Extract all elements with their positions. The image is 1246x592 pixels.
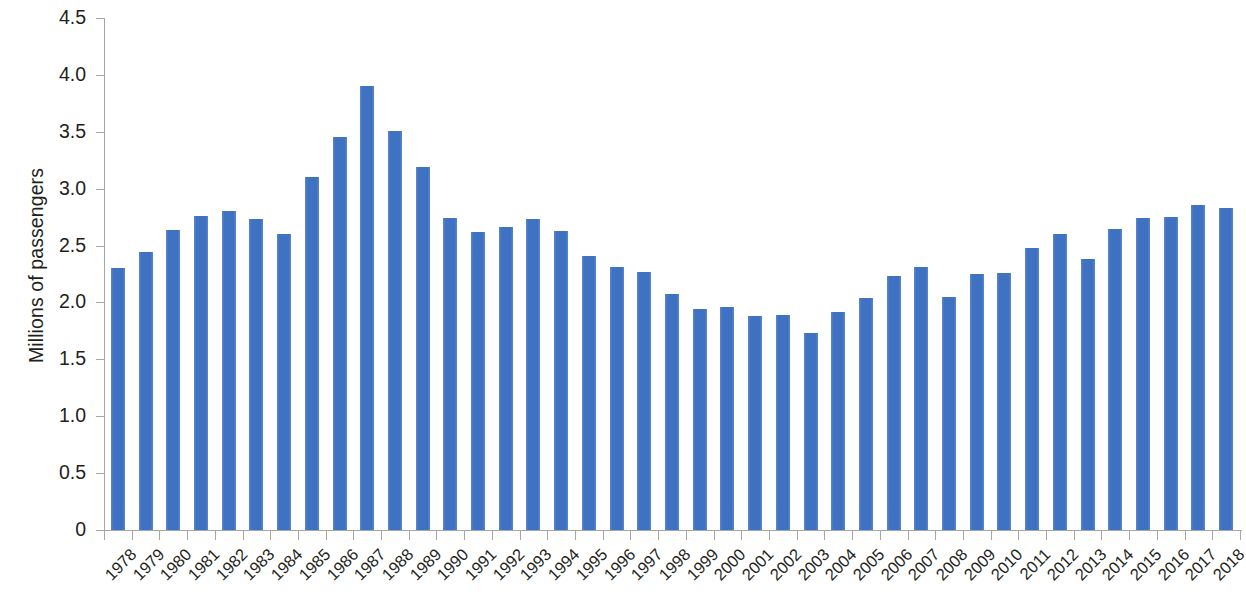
bar[interactable] <box>111 268 125 530</box>
bar[interactable] <box>499 227 513 530</box>
bar[interactable] <box>1081 259 1095 530</box>
x-axis-tick-label: 2018 <box>1209 545 1246 584</box>
bar[interactable] <box>194 216 208 530</box>
bar[interactable] <box>305 177 319 530</box>
bar[interactable] <box>665 294 679 530</box>
y-axis-tick <box>96 246 104 247</box>
x-axis-tick <box>991 531 992 540</box>
bar[interactable] <box>554 231 568 530</box>
x-axis-tick <box>630 531 631 540</box>
y-axis-tick-label: 3.5 <box>16 122 86 142</box>
x-axis-tick <box>159 531 160 540</box>
y-axis-tick-label: 4.5 <box>16 8 86 28</box>
x-axis-tick <box>326 531 327 540</box>
bar[interactable] <box>997 273 1011 530</box>
bar[interactable] <box>526 219 540 530</box>
x-axis-tick <box>132 531 133 540</box>
x-axis-tick <box>1212 531 1213 540</box>
bar-chart: Millions of passengers 4.54.03.53.02.52.… <box>0 0 1246 592</box>
y-axis-tick <box>96 189 104 190</box>
x-axis-tick <box>547 531 548 540</box>
x-axis-tick <box>298 531 299 540</box>
bar[interactable] <box>166 230 180 530</box>
x-axis-tick <box>658 531 659 540</box>
x-axis-tick <box>797 531 798 540</box>
x-axis-tick <box>1101 531 1102 540</box>
y-axis-tick <box>96 302 104 303</box>
bar[interactable] <box>416 167 430 530</box>
bar[interactable] <box>333 137 347 530</box>
bar[interactable] <box>360 86 374 530</box>
x-axis-tick <box>436 531 437 540</box>
bar[interactable] <box>942 297 956 530</box>
x-axis-tick <box>409 531 410 540</box>
bar[interactable] <box>693 309 707 530</box>
x-axis-tick <box>381 531 382 540</box>
bar[interactable] <box>1108 229 1122 531</box>
x-axis-tick <box>741 531 742 540</box>
y-axis-tick <box>96 416 104 417</box>
plot-area <box>104 18 1240 530</box>
bar[interactable] <box>637 272 651 530</box>
x-axis-tick <box>1157 531 1158 540</box>
bar[interactable] <box>582 256 596 530</box>
x-axis-tick <box>686 531 687 540</box>
x-axis-tick <box>603 531 604 540</box>
x-axis-tick <box>270 531 271 540</box>
x-axis-tick <box>1074 531 1075 540</box>
x-axis-tick <box>464 531 465 540</box>
bar[interactable] <box>914 267 928 530</box>
y-axis-tick-label: 2.0 <box>16 292 86 312</box>
bar[interactable] <box>277 234 291 530</box>
bar[interactable] <box>471 232 485 530</box>
x-axis-tick <box>824 531 825 540</box>
y-axis-tick-label: 0 <box>16 520 86 540</box>
x-axis-tick <box>215 531 216 540</box>
bar[interactable] <box>1053 234 1067 530</box>
bar[interactable] <box>831 312 845 530</box>
x-axis-tick <box>714 531 715 540</box>
x-axis-tick <box>1129 531 1130 540</box>
x-axis-tick <box>243 531 244 540</box>
y-axis-tick <box>96 132 104 133</box>
x-axis-tick <box>935 531 936 540</box>
bar[interactable] <box>388 131 402 530</box>
bar[interactable] <box>249 219 263 530</box>
bar[interactable] <box>748 316 762 530</box>
x-axis-tick <box>880 531 881 540</box>
bar[interactable] <box>970 274 984 530</box>
bar[interactable] <box>776 315 790 530</box>
x-axis-tick <box>1240 531 1241 540</box>
y-axis-tick <box>96 473 104 474</box>
y-axis-tick-label: 0.5 <box>16 463 86 483</box>
bar[interactable] <box>443 218 457 530</box>
x-axis-tick <box>852 531 853 540</box>
x-axis-tick <box>1185 531 1186 540</box>
bar[interactable] <box>720 307 734 530</box>
y-axis-tick <box>96 359 104 360</box>
x-axis-tick <box>769 531 770 540</box>
bar[interactable] <box>887 276 901 530</box>
bar[interactable] <box>1164 217 1178 530</box>
y-axis-tick-label: 1.0 <box>16 406 86 426</box>
x-axis-tick <box>104 531 105 540</box>
bar[interactable] <box>139 252 153 530</box>
bar[interactable] <box>222 211 236 530</box>
bar[interactable] <box>1191 205 1205 530</box>
y-axis-tick-label: 3.0 <box>16 179 86 199</box>
bar[interactable] <box>1025 248 1039 530</box>
y-axis-tick-label: 1.5 <box>16 349 86 369</box>
x-axis-tick <box>187 531 188 540</box>
x-axis-tick <box>492 531 493 540</box>
bar[interactable] <box>1136 218 1150 530</box>
x-axis-tick <box>575 531 576 540</box>
bar[interactable] <box>804 333 818 530</box>
bar[interactable] <box>610 267 624 530</box>
y-axis-tick <box>96 530 104 531</box>
y-axis-tick <box>96 18 104 19</box>
bar[interactable] <box>1219 208 1233 530</box>
y-axis-tick-label: 4.0 <box>16 65 86 85</box>
y-axis-tick-label: 2.5 <box>16 236 86 256</box>
x-axis-tick <box>908 531 909 540</box>
bar[interactable] <box>859 298 873 530</box>
